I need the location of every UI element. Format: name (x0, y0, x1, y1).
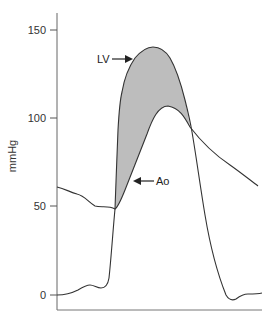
lv-label: LV (97, 53, 110, 65)
y-tick-label-150: 150 (28, 24, 46, 36)
y-tick-label-50: 50 (34, 200, 46, 212)
ao-label: Ao (156, 175, 169, 187)
ao-pressure-curve (57, 106, 258, 209)
y-tick-label-100: 100 (28, 112, 46, 124)
lv-arrow-head-icon (125, 55, 133, 63)
ao-arrow-head-icon (133, 177, 141, 185)
y-axis-title: mmHg (6, 140, 18, 172)
ejection-shaded-area (115, 47, 190, 209)
y-tick-label-0: 0 (40, 289, 46, 301)
pressure-chart: 150 100 50 0 mmHg LV Ao (0, 0, 267, 320)
